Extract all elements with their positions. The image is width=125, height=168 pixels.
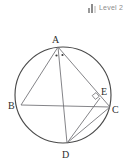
chord-de (67, 98, 100, 143)
chord-dc (67, 107, 110, 143)
angle-mark-dot-left (55, 54, 57, 56)
vertex-label-C: C (112, 104, 119, 115)
vertex-label-B: B (8, 100, 15, 111)
angle-mark-dot-right (61, 54, 63, 56)
chord-ab (21, 47, 58, 105)
chord-ac (58, 47, 110, 107)
chord-ad (58, 47, 67, 143)
vertex-label-E: E (101, 86, 107, 97)
geometry-figure-container: A B C D E (0, 0, 125, 168)
vertex-label-A: A (52, 34, 60, 45)
circle-geometry-diagram: A B C D E (0, 0, 125, 168)
chord-bc (21, 105, 110, 107)
vertex-label-D: D (62, 149, 69, 160)
circle-outline (15, 47, 111, 143)
